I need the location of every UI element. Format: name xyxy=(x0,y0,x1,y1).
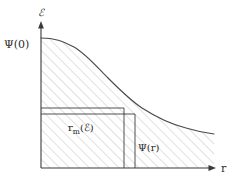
r-axis-label: r xyxy=(221,162,227,175)
energy-axis-arrow-icon xyxy=(38,21,44,29)
r-m-argument: (ℰ) xyxy=(80,122,94,133)
figure-container: Ψ(0) ℰ r rm(ℰ) Ψ(r) xyxy=(0,0,233,186)
shaded-area-under-curve xyxy=(41,36,216,169)
r-m-subscript: m xyxy=(73,127,80,136)
potential-diagram-svg: Ψ(0) ℰ r rm(ℰ) Ψ(r) xyxy=(0,0,233,186)
psi-zero-label: Ψ(0) xyxy=(4,38,29,51)
psi-of-r-label: Ψ(r) xyxy=(138,142,159,153)
energy-axis-label: ℰ xyxy=(38,7,45,18)
